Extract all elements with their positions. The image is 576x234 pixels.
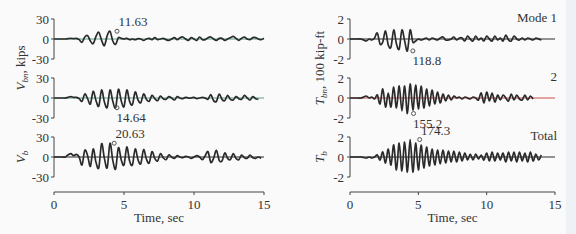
- x-axis-label: Time, sec: [134, 210, 184, 225]
- y-tick-label: 30: [36, 130, 49, 145]
- series-line: [350, 30, 541, 51]
- y-tick-label: 0: [43, 32, 50, 47]
- x-tick-label: 5: [415, 197, 422, 212]
- right-shared-ylabel: Tbn, 100 kip-ft: [312, 30, 329, 105]
- subplot-legend: Mode 1: [517, 10, 557, 25]
- y-tick-label: 0: [43, 150, 50, 165]
- peak-label: 11.63: [119, 14, 148, 29]
- series-line: [350, 140, 541, 172]
- svg-text:Tbn, 100 kip-ft: Tbn, 100 kip-ft: [312, 30, 329, 105]
- peak-label: 14.64: [116, 110, 146, 125]
- x-axis-label: Time, sec: [427, 210, 477, 225]
- y-tick-label: -30: [32, 170, 49, 185]
- y-tick-label: 2: [338, 71, 345, 86]
- series-line: [54, 31, 264, 46]
- y-tick-label: -2: [333, 52, 344, 67]
- y-tick-label: -30: [32, 111, 49, 126]
- peak-label: 20.63: [116, 126, 145, 141]
- x-tick-label: 0: [51, 197, 58, 212]
- y-tick-label: 0: [338, 150, 345, 165]
- x-tick-label: 15: [549, 197, 562, 212]
- subplot-legend: Total: [530, 128, 557, 143]
- svg-text:Vb: Vb: [13, 150, 30, 163]
- series-line: [350, 84, 533, 114]
- subplot-0-1: 300-3014.64: [32, 71, 264, 126]
- y-tick-label: -2: [333, 111, 344, 126]
- x-tick-label: 10: [480, 197, 493, 212]
- y-tick-label: -2: [333, 170, 344, 185]
- y-tick-label: 0: [338, 32, 345, 47]
- x-tick-label: 15: [258, 197, 271, 212]
- figure: Vbn, kips Vb Tbn, 100 kip-ft Tb 300-3011…: [0, 0, 576, 234]
- subplot-1-0: 20-2118.8Mode 1: [333, 10, 557, 68]
- series-line: [54, 143, 261, 169]
- y-tick-label: -30: [32, 52, 49, 67]
- svg-text:Vbn, kips: Vbn, kips: [13, 45, 30, 90]
- series-line: [54, 89, 258, 108]
- subplot-legend: 2: [551, 69, 558, 84]
- y-tick-label: 0: [338, 91, 345, 106]
- y-tick-label: 2: [338, 12, 345, 27]
- left-vb-ylabel: Vb: [13, 150, 30, 163]
- peak-label: 118.8: [412, 53, 441, 68]
- subplot-0-0: 300-3011.63: [32, 12, 264, 67]
- svg-text:Tb: Tb: [312, 151, 329, 163]
- x-tick-label: 5: [121, 197, 128, 212]
- peak-marker: [112, 141, 116, 145]
- subplot-1-1: 20-2155.22: [333, 69, 557, 131]
- x-tick-label: 10: [188, 197, 201, 212]
- peak-marker: [418, 138, 422, 142]
- y-tick-label: 2: [338, 130, 345, 145]
- y-tick-label: 0: [43, 91, 50, 106]
- subplot-1-2: 20-2174.3Total: [333, 123, 557, 185]
- x-tick-label: 0: [347, 197, 354, 212]
- y-tick-label: 30: [36, 12, 49, 27]
- left-shared-ylabel: Vbn, kips: [13, 45, 30, 90]
- peak-marker: [115, 29, 119, 33]
- right-tb-ylabel: Tb: [312, 151, 329, 163]
- subplot-0-2: 300-3020.63: [32, 126, 264, 184]
- peak-label: 174.3: [421, 123, 450, 138]
- y-tick-label: 30: [36, 71, 49, 86]
